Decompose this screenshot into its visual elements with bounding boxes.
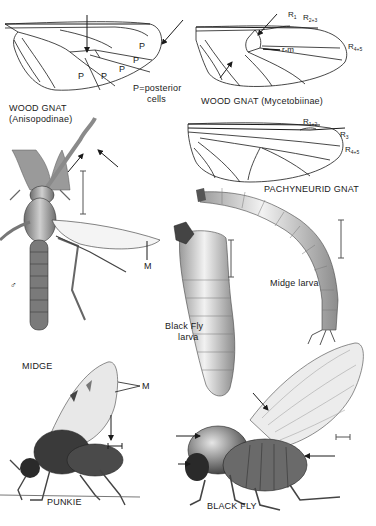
rm-pointer: [263, 49, 280, 50]
figure-title-wood-gnat-mycetobiinae: WOOD GNAT (Mycetobiinae): [201, 96, 323, 107]
black-fly-larva-illustration: [174, 222, 235, 396]
figure-title-black-fly-larva-line2: larva: [178, 332, 199, 343]
arrow-pointer: [220, 62, 232, 78]
illustration-plate: [0, 0, 376, 526]
vein-label-r3: R3: [340, 130, 349, 140]
midge-illustration: [0, 118, 160, 330]
cell-label-p: P: [139, 41, 145, 52]
figure-title-black-fly-larva-line1: Black Fly: [165, 321, 203, 332]
figure-title-punkie: PUNKIE: [47, 497, 82, 508]
vein-pointer: [115, 382, 140, 392]
vein-label-m: M: [142, 381, 150, 392]
vein-label-r-m: r-m: [282, 45, 294, 54]
wing-mycetobiinae: [196, 26, 347, 87]
cell-label-p: P: [78, 71, 84, 82]
cell-label-p: P: [101, 71, 107, 82]
cell-label-p: P: [133, 55, 139, 66]
punkie-illustration: [0, 362, 140, 505]
cell-label-p: P: [119, 64, 125, 75]
vein-label-r4-5: R4+5: [345, 145, 359, 155]
scale-bar: [228, 240, 234, 277]
vein-label-r2-3: R2+3: [303, 13, 317, 23]
arrow-pointer: [258, 14, 277, 35]
scale-bar: [108, 415, 122, 449]
legend-posterior: P=posterior: [133, 83, 181, 94]
legend-cells: cells: [147, 94, 166, 105]
figure-title-midge-larva: Midge larva: [270, 278, 319, 289]
figure-title-pachyneurid-gnat: PACHYNEURID GNAT: [264, 184, 359, 195]
arrow-pointer: [98, 150, 118, 167]
male-symbol: ♂: [10, 280, 17, 291]
arrow-pointer: [162, 20, 183, 44]
vein-label-r1: R1: [288, 10, 297, 20]
scale-bar: [338, 220, 344, 258]
figure-title-black-fly: BLACK FLY: [207, 501, 257, 512]
figure-subtitle-anisopodinae: (Anisopodinae): [9, 114, 72, 125]
scale-bar: [80, 171, 86, 214]
vein-label-r4-5: R4+5: [348, 42, 362, 52]
vein-label-r1-2: R1+2: [303, 117, 317, 127]
wing-pachyneurid: [188, 123, 345, 182]
scale-bar: [336, 434, 350, 440]
vein-label-m: M: [144, 261, 152, 272]
figure-title-midge: MIDGE: [22, 361, 53, 372]
figure-title-wood-gnat: WOOD GNAT: [9, 103, 67, 114]
